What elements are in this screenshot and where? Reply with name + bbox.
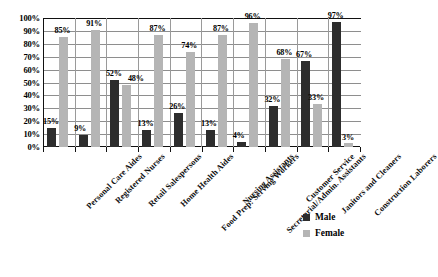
bar-female [122,85,131,147]
y-axis-tick-label: 40% [0,91,40,100]
data-label-female: 3% [342,134,354,142]
bar-female [313,104,322,147]
bar-group [233,18,265,147]
x-axis-label: Customer Service [304,152,356,204]
bar-groups: 15%85%9%91%52%48%13%87%26%74%13%87%4%96%… [43,18,360,147]
x-axis-label: Construction Laborers [373,152,438,218]
data-label-male: 52% [106,70,122,78]
data-label-male: 32% [264,96,280,104]
data-label-female: 74% [181,42,197,50]
bar-group [328,18,360,147]
data-label-male: 13% [138,120,154,128]
y-axis-tick-label: 30% [0,104,40,113]
y-axis-tick-label: 20% [0,117,40,126]
bar-female [59,37,68,147]
bar-male [269,106,278,147]
y-axis-tick-label: 60% [0,65,40,74]
y-axis-tick-label: 10% [0,130,40,139]
legend-label-male: Male [315,212,335,222]
bar-female [186,52,195,147]
data-label-male: 97% [328,12,344,20]
data-label-female: 33% [308,94,324,102]
bar-male [110,80,119,147]
data-label-male: 15% [43,118,59,126]
data-label-male: 9% [74,125,86,133]
y-axis-tick-label: 100% [0,14,40,23]
bar-female [249,23,258,147]
bar-group [265,18,297,147]
data-label-male: 13% [201,120,217,128]
bar-male [301,61,310,147]
bar-female [91,30,100,147]
bar-male [47,128,56,147]
legend-item-male: Male [303,209,344,225]
bar-female [154,35,163,147]
data-label-female: 91% [86,20,102,28]
bar-male [174,113,183,147]
data-label-female: 48% [128,75,144,83]
y-axis-tick-label: 50% [0,78,40,87]
legend-swatch-female-icon [303,230,310,237]
y-axis-tick-label: 70% [0,52,40,61]
data-label-female: 87% [213,25,229,33]
y-axis-tick-label: 90% [0,27,40,36]
bar-group [170,18,202,147]
data-label-female: 68% [276,49,292,57]
bar-male [206,130,215,147]
chart-legend: Male Female [303,209,344,241]
bar-male [142,130,151,147]
legend-swatch-male-icon [303,214,310,221]
bar-group [43,18,75,147]
data-label-male: 4% [233,132,245,140]
data-label-male: 67% [296,51,312,59]
data-label-female: 96% [245,13,261,21]
y-axis-tick-labels: 0%10%20%30%40%50%60%70%80%90%100% [0,0,40,165]
legend-label-female: Female [315,228,344,238]
bar-male [79,135,88,147]
data-label-female: 87% [150,25,166,33]
bar-female [281,59,290,147]
y-axis-tick-label: 80% [0,40,40,49]
legend-item-female: Female [303,225,344,241]
bar-male [332,22,341,147]
data-label-female: 85% [55,27,71,35]
bar-group [297,18,329,147]
data-label-male: 26% [169,103,185,111]
x-axis-label: Nursing Assistants [241,152,296,207]
bar-female [218,35,227,147]
